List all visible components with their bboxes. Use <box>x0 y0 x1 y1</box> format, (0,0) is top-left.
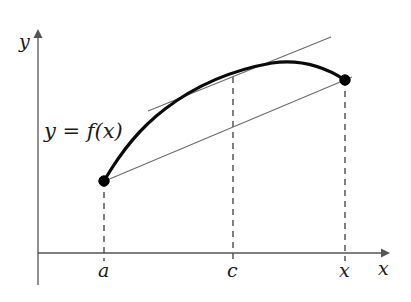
mvt-diagram-canvas: y x a c x y = f(x) <box>0 0 411 302</box>
tick-label-a: a <box>98 259 109 281</box>
tick-label-c: c <box>227 259 238 281</box>
y-axis-arrowhead <box>34 29 43 38</box>
curve-equation-label: y = f(x) <box>43 119 123 143</box>
y-axis-label: y <box>18 30 30 52</box>
tick-label-x: x <box>339 259 350 281</box>
drop-lines-group <box>104 77 345 261</box>
x-axis-label: x <box>378 257 389 279</box>
secant-line <box>100 77 352 183</box>
endpoint-dot-x <box>340 75 350 85</box>
figure-root: y x a c x y = f(x) <box>0 0 411 302</box>
axes-group <box>34 29 391 285</box>
endpoint-dot-a <box>99 176 109 186</box>
